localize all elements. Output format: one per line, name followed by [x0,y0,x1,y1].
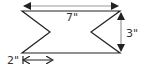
height-label: 3" [126,27,138,40]
width-label: 7" [66,11,78,24]
notch-depth-label: 2" [7,54,19,67]
notched-shape-diagram: 7" 3" 2" [0,0,145,73]
